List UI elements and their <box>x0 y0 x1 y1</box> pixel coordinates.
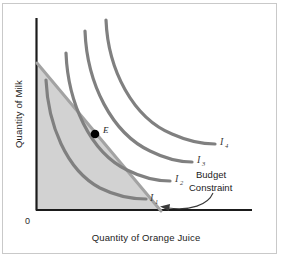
curve-label-i2: I <box>174 173 179 184</box>
curve-label-i4: I <box>219 136 224 147</box>
curve-label-i4-subscript: 4 <box>225 142 229 149</box>
budget-constraint-label-line1: Budget <box>196 169 226 180</box>
economics-indifference-curve-figure: E I 1 I 2 I 3 I 4 Budget Constraint 0 Qu… <box>0 0 281 259</box>
curve-label-i1-subscript: 1 <box>155 198 158 205</box>
origin-label: 0 <box>25 216 30 226</box>
curve-label-i1: I <box>149 192 154 203</box>
optimum-point-label: E <box>102 125 109 135</box>
budget-constraint-arrow <box>168 193 213 209</box>
x-axis-label: Quantity of Orange Juice <box>92 232 201 243</box>
budget-constraint-label-line2: Constraint <box>189 182 233 193</box>
curve-label-i2-subscript: 2 <box>180 179 184 186</box>
indifference-curve-4 <box>106 20 215 144</box>
y-axis-label: Quantity of Milk <box>13 80 24 148</box>
curve-label-i3-subscript: 3 <box>201 160 206 167</box>
plot-area: E I 1 I 2 I 3 I 4 Budget Constraint 0 Qu… <box>0 0 281 259</box>
curve-label-i3: I <box>196 154 201 165</box>
optimum-point-marker <box>91 130 100 139</box>
